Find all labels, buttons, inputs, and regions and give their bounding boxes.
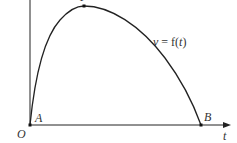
point-origin-a: [29, 124, 32, 127]
curve-label-close: ): [182, 35, 186, 49]
curve-label: v = f(t): [153, 36, 186, 48]
curve-label-f: f(: [171, 35, 179, 49]
curve-label-eq: =: [158, 35, 171, 49]
point-p: [83, 5, 86, 8]
curve-v-f-t: [30, 6, 201, 125]
origin-label: O: [17, 128, 26, 140]
x-axis-arrow-icon: [223, 122, 231, 128]
point-b-label: B: [204, 111, 211, 123]
x-axis-label: t: [223, 130, 226, 142]
point-b: [200, 124, 203, 127]
point-a-label: A: [35, 112, 42, 124]
point-p-label: P: [80, 0, 87, 3]
